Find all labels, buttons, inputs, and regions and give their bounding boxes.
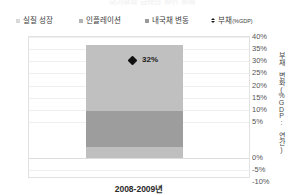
legend-swatch-icon: [145, 19, 149, 23]
bar-segment-inflation[interactable]: [86, 111, 183, 147]
marker-value-label: 32%: [142, 56, 158, 64]
legend-label: 내국채 변동: [152, 17, 189, 25]
legend-item-inflation[interactable]: 인플레이션: [79, 17, 121, 25]
legend-swatch-icon: [79, 19, 83, 23]
legend-swatch-icon: [16, 19, 20, 23]
legend-label: 부채: [218, 17, 232, 25]
gridline-40: [29, 37, 249, 38]
y-tick-label: 40%: [252, 33, 276, 41]
chart-container: 국가부채 급증의 원인 분해 실질 성장 인플레이션 내국채 변동 부채(%GD…: [0, 0, 304, 195]
y-tick-label: -5%: [252, 166, 276, 174]
gridline-neg5: [29, 170, 249, 171]
diamond-marker-icon: [128, 55, 138, 65]
legend-item-debt-gdp[interactable]: 부채(%GDP): [211, 17, 252, 25]
diamond-marker-icon: [211, 16, 215, 20]
legend-label-sub: (%GDP): [232, 18, 252, 24]
y-axis-title: 부채 변화(%GDP: 연간): [271, 52, 285, 160]
y-tick-label: -10%: [252, 178, 276, 186]
legend-label: 인플레이션: [86, 17, 121, 25]
chart-legend: 실질 성장 인플레이션 내국채 변동 부채(%GDP): [8, 14, 300, 27]
plot-area: 32%: [28, 36, 250, 178]
gridline-zero: [29, 158, 249, 159]
debt-value-marker[interactable]: 32%: [129, 56, 158, 64]
legend-item-real-growth[interactable]: 실질 성장: [16, 17, 53, 25]
chart-title: 국가부채 급증의 원인 분해: [0, 0, 304, 5]
bar-segment-domestic-bond-change[interactable]: [86, 147, 183, 158]
bar-segment-real-growth[interactable]: [86, 45, 183, 111]
x-axis-label: 2008-2009년: [28, 182, 250, 194]
legend-label: 실질 성장: [23, 17, 53, 25]
legend-item-domestic-bond-change[interactable]: 내국채 변동: [145, 17, 189, 25]
